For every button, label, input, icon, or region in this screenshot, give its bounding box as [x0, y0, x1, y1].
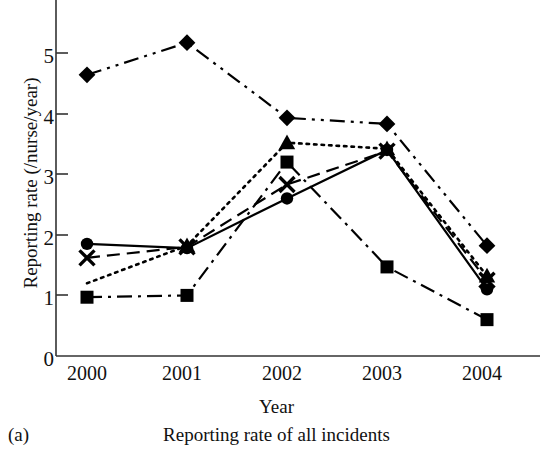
data-point-square — [181, 289, 194, 302]
data-point-square — [381, 260, 394, 273]
data-point-circle — [381, 144, 393, 156]
data-point-circle — [481, 283, 493, 295]
data-point-square — [481, 313, 494, 326]
data-point-circle — [181, 242, 193, 254]
data-point-diamond — [279, 109, 296, 126]
data-point-diamond — [179, 34, 196, 51]
data-point-x — [280, 177, 295, 192]
figure-caption: Reporting rate of all incidents — [0, 424, 553, 446]
data-point-circle — [81, 238, 93, 250]
series-square — [81, 156, 494, 327]
y-tick-marks — [56, 53, 68, 295]
data-point-square — [281, 156, 294, 169]
axes — [56, 0, 540, 356]
data-point-circle — [281, 192, 293, 204]
data-series-group — [79, 34, 496, 326]
data-point-diamond — [79, 66, 96, 83]
data-point-diamond — [379, 116, 396, 133]
data-point-square — [81, 291, 94, 304]
x-axis-label: Year — [0, 396, 553, 418]
chart-figure: Reporting rate (/nurse/year) 5 4 3 2 1 0… — [0, 0, 553, 465]
